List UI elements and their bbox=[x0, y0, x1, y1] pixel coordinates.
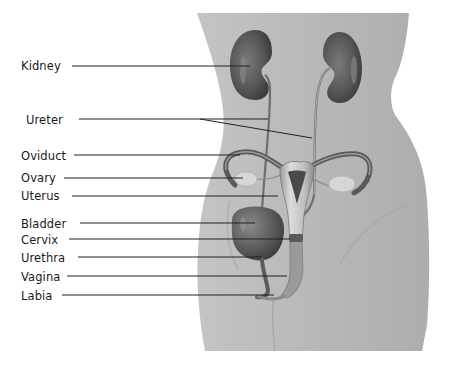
bladder bbox=[232, 207, 284, 261]
anatomy-diagram bbox=[0, 0, 450, 367]
label-ureter: Ureter bbox=[26, 113, 63, 127]
label-oviduct: Oviduct bbox=[21, 149, 66, 163]
label-labia: Labia bbox=[21, 289, 53, 303]
ovary-left bbox=[235, 172, 257, 186]
cervix bbox=[289, 234, 303, 242]
bladder-highlight bbox=[240, 217, 246, 231]
label-kidney: Kidney bbox=[21, 59, 61, 73]
ovary-right bbox=[329, 176, 355, 192]
label-vagina: Vagina bbox=[21, 270, 60, 284]
kidney-right-highlight bbox=[351, 56, 357, 84]
label-cervix: Cervix bbox=[21, 233, 58, 247]
label-ovary: Ovary bbox=[21, 171, 56, 185]
kidney-left-highlight bbox=[240, 56, 246, 84]
label-uterus: Uterus bbox=[21, 189, 60, 203]
label-urethra: Urethra bbox=[21, 251, 65, 265]
label-bladder: Bladder bbox=[21, 217, 66, 231]
